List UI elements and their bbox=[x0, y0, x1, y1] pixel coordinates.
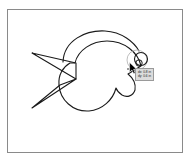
tooltip-line-dy: dy: 0.6 in bbox=[138, 74, 152, 78]
dimension-tooltip: dx: 0.8 in dy: 0.6 in bbox=[135, 68, 154, 81]
drawing-canvas[interactable] bbox=[7, 9, 183, 153]
application-window: dx: 0.8 in dy: 0.6 in bbox=[0, 0, 191, 162]
